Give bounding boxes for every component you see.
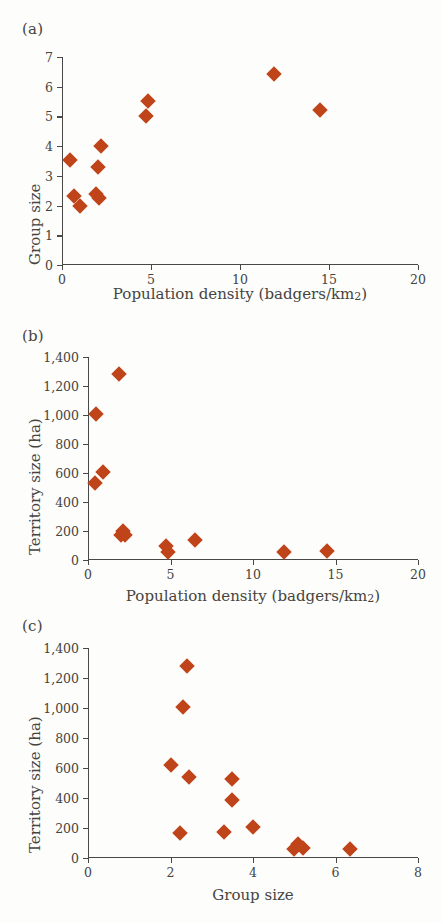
scatter-plot-a: 0510152001234567 — [62, 57, 418, 265]
y-tick-a-6 — [57, 87, 62, 88]
y-tick-label-c-2: 400 — [55, 791, 79, 806]
x-tick-label-b-2: 10 — [245, 567, 261, 582]
y-tick-b-5 — [83, 415, 88, 416]
y-tick-a-1 — [57, 235, 62, 236]
y-tick-label-a-6: 6 — [45, 79, 53, 94]
y-tick-a-5 — [57, 116, 62, 117]
panel-a-label: (a) — [22, 20, 43, 38]
km-squared-exponent: 2 — [354, 290, 361, 303]
y-tick-c-4 — [83, 738, 88, 739]
x-tick-c-0 — [88, 858, 89, 863]
y-tick-c-7 — [83, 648, 88, 649]
y-tick-b-4 — [83, 444, 88, 445]
y-axis-title-a: Group size — [26, 184, 44, 266]
y-tick-label-c-1: 200 — [55, 821, 79, 836]
y-tick-label-b-2: 400 — [55, 495, 79, 510]
panel-a: (a) 0510152001234567 Population density … — [0, 0, 442, 310]
y-tick-c-5 — [83, 708, 88, 709]
km-squared-exponent: 2 — [367, 592, 374, 605]
y-tick-label-b-3: 600 — [55, 466, 79, 481]
x-tick-b-2 — [253, 560, 254, 565]
y-tick-b-7 — [83, 357, 88, 358]
y-tick-label-b-5: 1,000 — [43, 408, 79, 423]
y-axis-c — [88, 648, 89, 858]
y-tick-label-c-0: 0 — [71, 851, 79, 866]
x-tick-label-c-3: 6 — [332, 865, 340, 880]
y-tick-label-a-3: 3 — [45, 168, 53, 183]
y-tick-b-1 — [83, 531, 88, 532]
x-tick-label-b-0: 0 — [84, 567, 92, 582]
x-tick-c-3 — [336, 858, 337, 863]
y-axis-b — [88, 357, 89, 560]
y-tick-a-4 — [57, 146, 62, 147]
x-tick-label-c-2: 4 — [249, 865, 257, 880]
y-axis-title-b: Territory size (ha) — [26, 418, 44, 555]
y-tick-label-c-3: 600 — [55, 761, 79, 776]
y-tick-b-3 — [83, 473, 88, 474]
panel-b-label: (b) — [22, 327, 44, 345]
y-tick-label-a-7: 7 — [45, 50, 53, 65]
y-tick-label-b-7: 1,400 — [43, 350, 79, 365]
x-tick-label-b-4: 20 — [410, 567, 426, 582]
x-axis-title-a: Population density (badgers/km2) — [62, 285, 418, 303]
y-tick-label-c-4: 800 — [55, 731, 79, 746]
y-tick-label-a-2: 2 — [45, 198, 53, 213]
y-tick-a-2 — [57, 206, 62, 207]
y-tick-c-6 — [83, 678, 88, 679]
x-tick-a-4 — [418, 265, 419, 270]
x-tick-label-c-1: 2 — [167, 865, 175, 880]
x-tick-a-1 — [151, 265, 152, 270]
y-tick-b-6 — [83, 386, 88, 387]
y-tick-label-a-0: 0 — [45, 258, 53, 273]
plot-area-a — [62, 57, 418, 265]
x-tick-a-3 — [329, 265, 330, 270]
panel-c-label: (c) — [22, 617, 43, 635]
y-tick-label-b-0: 0 — [71, 553, 79, 568]
y-tick-c-2 — [83, 798, 88, 799]
x-tick-label-c-4: 8 — [414, 865, 422, 880]
y-tick-a-0 — [57, 265, 62, 266]
y-tick-label-b-1: 200 — [55, 524, 79, 539]
panel-c: (c) 0246802004006008001,0001,2001,400 Gr… — [0, 605, 442, 923]
y-tick-label-a-1: 1 — [45, 228, 53, 243]
x-tick-c-2 — [253, 858, 254, 863]
y-tick-label-c-7: 1,400 — [43, 641, 79, 656]
y-tick-c-1 — [83, 828, 88, 829]
y-tick-b-2 — [83, 502, 88, 503]
x-tick-label-b-3: 15 — [328, 567, 344, 582]
y-tick-a-7 — [57, 57, 62, 58]
y-tick-b-0 — [83, 560, 88, 561]
x-axis-title-c: Group size — [88, 886, 418, 904]
y-tick-label-c-5: 1,000 — [43, 701, 79, 716]
scatter-plot-c: 0246802004006008001,0001,2001,400 — [88, 648, 418, 858]
y-tick-c-0 — [83, 858, 88, 859]
x-tick-c-1 — [171, 858, 172, 863]
panel-b: (b) 0510152002004006008001,0001,2001,400… — [0, 305, 442, 610]
y-tick-label-b-6: 1,200 — [43, 379, 79, 394]
y-tick-label-a-5: 5 — [45, 109, 53, 124]
x-tick-label-b-1: 5 — [167, 567, 175, 582]
x-tick-a-0 — [62, 265, 63, 270]
x-tick-c-4 — [418, 858, 419, 863]
x-tick-b-3 — [336, 560, 337, 565]
scatter-plot-b: 0510152002004006008001,0001,2001,400 — [88, 357, 418, 560]
plot-area-b — [88, 357, 418, 560]
x-tick-b-1 — [171, 560, 172, 565]
x-tick-a-2 — [240, 265, 241, 270]
y-tick-label-a-4: 4 — [45, 139, 53, 154]
y-tick-a-3 — [57, 176, 62, 177]
y-tick-label-c-6: 1,200 — [43, 671, 79, 686]
x-tick-b-4 — [418, 560, 419, 565]
y-axis-title-c: Territory size (ha) — [26, 716, 44, 853]
y-tick-label-b-4: 800 — [55, 437, 79, 452]
x-tick-b-0 — [88, 560, 89, 565]
y-tick-c-3 — [83, 768, 88, 769]
x-axis-title-b: Population density (badgers/km2) — [88, 587, 418, 605]
x-tick-label-c-0: 0 — [84, 865, 92, 880]
